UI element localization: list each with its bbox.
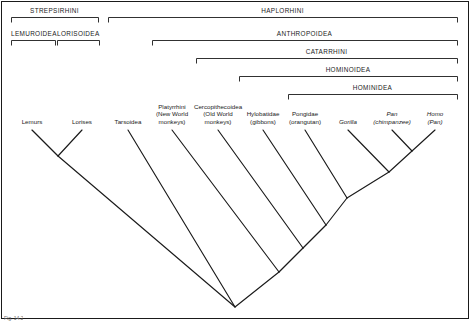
- branch-platyrrhini: [172, 130, 279, 272]
- rank-label-lemuroidea: LEMUROIDEA: [11, 30, 55, 37]
- branch-lorises: [58, 130, 82, 156]
- primate-cladogram-figure: STREPSIRHINIHAPLORHINILEMUROIDEALORISOID…: [0, 0, 470, 321]
- branch-hylobatidae: [263, 130, 326, 225]
- rank-label-haplorhini: HAPLORHINI: [108, 7, 457, 14]
- rank-label-anthropoidea: ANTHROPOIDEA: [152, 30, 457, 37]
- rank-label-hominidea: HOMINIDEA: [288, 84, 457, 91]
- branch-pongidae-clade: [326, 198, 347, 225]
- branch-anthropoidea-stem: [235, 272, 279, 307]
- branch-catarrhini-stem: [279, 248, 303, 272]
- rank-label-strepsirhini: STREPSIRHINI: [11, 7, 98, 14]
- rank-label-catarrhini: CATARRHINI: [196, 48, 457, 55]
- branch-gorilla-clade: [347, 172, 389, 198]
- tip-label-pongidae-line-0: Pongidae: [265, 110, 345, 117]
- rank-label-lorisoidea: LORISOIDEA: [57, 30, 99, 37]
- branch-pan: [392, 130, 412, 151]
- branch-tarsoidea: [128, 130, 235, 307]
- branch-lemurs: [32, 130, 58, 156]
- branch-gorilla: [348, 130, 389, 172]
- tip-label-homo: Homo(Pan): [395, 110, 470, 125]
- tip-label-homo-line-1: (Pan): [395, 118, 470, 125]
- branch-panhomo-stem: [389, 151, 412, 172]
- tip-label-cercopithecoidea-line-0: Cercopithecoidea: [178, 103, 258, 110]
- branch-homo: [412, 130, 435, 151]
- branch-pongidae: [305, 130, 347, 198]
- rank-label-hominoidea: HOMINOIDEA: [239, 66, 457, 73]
- branch-cercopithecoidea: [218, 130, 303, 248]
- branch-hominoidea-stem: [303, 225, 326, 248]
- figure-caption: Fig. 14.2: [4, 315, 23, 321]
- tip-label-homo-line-0: Homo: [395, 110, 470, 117]
